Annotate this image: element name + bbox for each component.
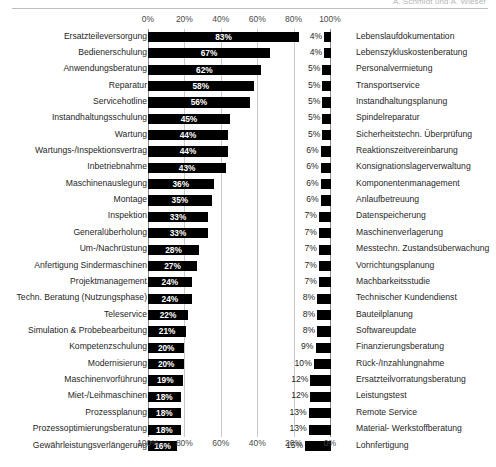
right-category-label: Bauteilplanung	[356, 309, 413, 320]
left-bar-value: 33%	[148, 212, 208, 222]
axis-tick-top-40: 40%	[212, 14, 229, 24]
chart-row: Projektmanagement24%7%Machbarkeitsstudie	[0, 275, 496, 291]
right-bar-value: 7%	[283, 243, 317, 254]
chart-row: Miet-/Leihmaschinen18%12%Leistungstest	[0, 389, 496, 405]
left-bar: 33%	[148, 212, 208, 222]
left-category-label: Anwendungsberatung	[0, 63, 147, 74]
left-bar-value: 18%	[148, 408, 181, 418]
right-bar-value: 6%	[285, 145, 319, 156]
right-bar-value: 4%	[288, 31, 322, 42]
right-bar-value: 7%	[283, 210, 317, 221]
axis-tick-bottom-100: 100%	[137, 438, 159, 448]
right-category-label: Ersatzteilvorratungsberatung	[356, 374, 466, 385]
right-bar-value: 8%	[281, 292, 315, 303]
chart-row: Anwendungsberatung62%5%Personalvermietun…	[0, 62, 496, 78]
left-category-label: Inbetriebnahme	[0, 161, 147, 172]
axis-tick-bottom-0: 0%	[324, 438, 336, 448]
left-bar-value: 20%	[148, 343, 184, 353]
chart-row: Inspektion33%7%Datenspeicherung	[0, 209, 496, 225]
left-bar: 83%	[148, 32, 299, 42]
chart-row: Kompetenzschulung20%9%Finanzierungsberat…	[0, 340, 496, 356]
chart-row: Instandhaltungsschulung45%5%Spindelrepar…	[0, 111, 496, 127]
right-bar	[310, 375, 331, 385]
right-category-label: Machbarkeitsstudie	[356, 276, 430, 287]
right-category-label: Instandhaltungsplanung	[356, 96, 447, 107]
right-category-label: Komponentenmanagement	[356, 178, 460, 189]
right-bar	[321, 146, 331, 156]
axis-tick-top-60: 60%	[249, 14, 266, 24]
right-bar	[322, 130, 331, 140]
page-running-header: A. Schmidt und A. Wieser	[0, 0, 496, 12]
right-category-label: Reaktionszeitvereinbarung	[356, 145, 458, 156]
left-bar: 36%	[148, 179, 214, 189]
left-category-label: Servicehotline	[0, 96, 147, 107]
right-bar	[322, 114, 331, 124]
right-category-label: Remote Service	[356, 407, 417, 418]
left-bar-value: 20%	[148, 359, 184, 369]
right-bar-value: 5%	[286, 96, 320, 107]
right-bar	[321, 179, 331, 189]
left-bar-value: 33%	[148, 228, 208, 238]
left-bar: 43%	[148, 163, 226, 173]
left-bar: 58%	[148, 81, 254, 91]
left-bar-value: 19%	[148, 375, 183, 385]
left-bar: 18%	[148, 425, 181, 435]
chart-row: Reparatur58%5%Transportservice	[0, 79, 496, 95]
left-bar-value: 83%	[148, 32, 299, 42]
left-category-label: Prozessoptimierungsberatung	[0, 423, 147, 434]
left-bar: 21%	[148, 326, 186, 336]
right-bar	[324, 32, 331, 42]
left-bar: 45%	[148, 114, 230, 124]
right-bar	[316, 343, 331, 353]
left-category-label: Wartungs-/Inspektionsvertrag	[0, 145, 147, 156]
right-category-label: Finanzierungsberatung	[356, 341, 444, 352]
right-bar	[321, 195, 331, 205]
left-category-label: Teleservice	[0, 309, 147, 320]
right-bar-value: 6%	[285, 178, 319, 189]
right-bar-value: 9%	[280, 341, 314, 352]
left-bar-value: 58%	[148, 81, 254, 91]
left-category-label: Bedienerschulung	[0, 47, 147, 58]
left-bar-value: 36%	[148, 179, 214, 189]
right-bar	[322, 81, 331, 91]
chart-row: Wartung44%5%Sicherheitstechn. Überprüfun…	[0, 128, 496, 144]
left-bar-value: 24%	[148, 277, 192, 287]
left-bar-value: 62%	[148, 65, 261, 75]
chart-row: Servicehotline56%5%Instandhaltungsplanun…	[0, 95, 496, 111]
left-bar: 19%	[148, 375, 183, 385]
right-category-label: Transportservice	[356, 80, 420, 91]
chart-row: Prozessplanung18%13%Remote Service	[0, 406, 496, 422]
left-bar-value: 21%	[148, 326, 186, 336]
right-category-label: Technischer Kundendienst	[356, 292, 457, 303]
axis-tick-bottom-80: 80%	[176, 438, 193, 448]
left-category-label: Prozessplanung	[0, 407, 147, 418]
right-bar-value: 8%	[281, 309, 315, 320]
header-text: A. Schmidt und A. Wieser	[393, 0, 486, 6]
left-bar: 20%	[148, 359, 184, 369]
right-bar	[322, 97, 331, 107]
chart-row: Simulation & Probebearbeitung21%8%Softwa…	[0, 324, 496, 340]
axis-tick-top-100: 100%	[319, 14, 341, 24]
left-bar: 24%	[148, 294, 192, 304]
right-bar	[314, 359, 331, 369]
right-bar	[324, 48, 331, 58]
axis-tick-bottom-20: 20%	[285, 438, 302, 448]
left-bar: 35%	[148, 195, 212, 205]
axis-tick-top-80: 80%	[285, 14, 302, 24]
left-bar: 44%	[148, 146, 228, 156]
right-bar-value: 7%	[283, 227, 317, 238]
left-bar: 67%	[148, 48, 270, 58]
left-category-label: Maschinenvorführung	[0, 374, 147, 385]
left-bar-value: 27%	[148, 261, 197, 271]
header-divider	[12, 8, 488, 9]
left-bar-value: 35%	[148, 195, 212, 205]
right-category-label: Datenspeicherung	[356, 210, 426, 221]
horizontal-bar-chart: 0%20%40%60%80%100% Ersatzteileversorgung…	[0, 14, 496, 454]
right-bar	[317, 310, 331, 320]
right-category-label: Rück-/Inzahlungnahme	[356, 358, 444, 369]
right-bar	[319, 277, 331, 287]
left-bar: 28%	[148, 245, 199, 255]
right-bar-value: 4%	[288, 47, 322, 58]
axis-tick-bottom-60: 60%	[212, 438, 229, 448]
left-bar: 20%	[148, 343, 184, 353]
